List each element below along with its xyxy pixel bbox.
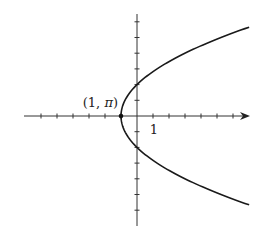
vertex-point [119, 114, 124, 119]
x-tick-label-1: 1 [150, 122, 158, 137]
vertex-label-pi: π [103, 95, 113, 110]
vertex-label-prefix: (1, [83, 95, 105, 110]
polar-graph: (1, π) 1 [0, 0, 264, 231]
vertex-label-suffix: ) [113, 95, 118, 110]
vertex-label: (1, π) [83, 95, 118, 110]
